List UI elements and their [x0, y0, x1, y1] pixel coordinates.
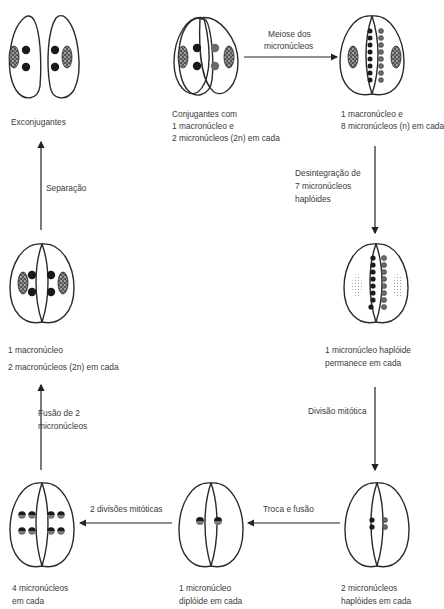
cell-pair-before-separation [10, 244, 74, 323]
label-meiosis-2: micronúcleos [264, 40, 313, 52]
label-one-remains-1: 1 micronúcleo haplóide [325, 344, 411, 356]
cell-pair-conjugants [174, 18, 238, 95]
label-disintegration-2: 7 micronúcleos [295, 180, 351, 192]
cell-pair-one-diploid [179, 483, 243, 567]
label-one-remains-2: permanece em cada [325, 357, 401, 369]
cell-pair-four-micronuclei [10, 483, 74, 567]
cell-pair-exconjugants [9, 16, 79, 98]
label-four-micro-1: 4 micronúcleos [12, 582, 68, 594]
label-exchange-fusion: Troca e fusão [263, 503, 314, 515]
label-four-micro-2: em cada [12, 595, 44, 607]
label-one-diploid-2: diplóide em cada [179, 595, 242, 607]
label-two-haploid-1: 2 micronúcleos [341, 582, 397, 594]
label-two-mitotic: 2 divisões mitóticas [90, 503, 162, 515]
label-meiosis-1: Meiose dos [268, 28, 311, 40]
label-conjugants-3: 2 micronúcleos (2n) em cada [172, 132, 280, 144]
label-after-meiosis-1: 1 macronúcleo e [341, 108, 403, 120]
label-one-diploid-1: 1 micronúcleo [179, 582, 231, 594]
label-disintegration-3: haplóides [295, 193, 331, 205]
label-disintegration-1: Desintegração de [295, 167, 361, 179]
label-two-haploid-2: haplóides em cada [341, 595, 411, 607]
label-before-separation-1: 1 macronúcleo [8, 344, 63, 356]
cell-pair-two-haploid [345, 483, 409, 567]
cell-pair-after-meiosis [340, 16, 404, 95]
label-after-meiosis-2: 8 micronúcleos (n) em cada [341, 120, 444, 132]
label-separation: Separação [46, 182, 86, 194]
label-exconjugants: Exconjugantes [11, 116, 66, 128]
cell-pair-one-remains [344, 244, 408, 323]
label-mitotic-division: Divisão mitótica [308, 405, 367, 417]
label-fusion-two-2: micronúcleos [38, 420, 87, 432]
label-conjugants-1: Conjugantes com [172, 108, 237, 120]
label-before-separation-2: 2 macronúcleos (2n) em cada [8, 361, 119, 373]
conjugation-diagram [0, 0, 444, 609]
label-conjugants-2: 1 macronúcleo e [172, 120, 234, 132]
label-fusion-two-1: Fusão de 2 [38, 407, 80, 419]
